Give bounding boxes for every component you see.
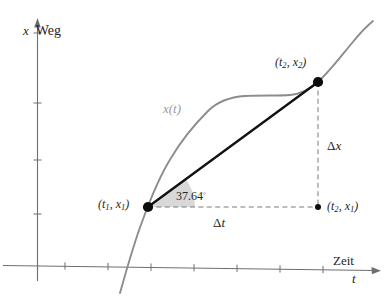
delta-x-variable: x <box>335 138 341 153</box>
paren-close: ) <box>354 199 358 213</box>
delta-t-label: Δt <box>213 216 225 229</box>
delta-t-variable: t <box>221 215 225 230</box>
y-axis-variable: x <box>23 23 29 38</box>
point-marker-t2-x2[interactable] <box>313 77 323 87</box>
x-axis-arrow-icon <box>372 267 382 274</box>
angle-number: 37.64 <box>176 189 203 203</box>
delta-x-label: Δx <box>327 139 341 152</box>
point-label-t1-x1: (t1, x1) <box>98 198 129 212</box>
figure-canvas: xWeg Zeit t x(t) (t1, x1) (t2, x2) (t2, … <box>0 0 385 301</box>
x-axis-ticks <box>65 262 323 273</box>
y-axis-label: xWeg <box>23 24 61 38</box>
curve-label: x(t) <box>163 102 181 115</box>
axis-group <box>3 18 381 281</box>
paren-close: ) <box>125 197 129 211</box>
point-marker-t1-x1[interactable] <box>143 202 153 212</box>
x-axis-name-label: Zeit <box>333 254 354 267</box>
paren-close: ) <box>302 55 306 69</box>
y-axis-unit-label: Weg <box>36 23 61 38</box>
degree-symbol: ◦ <box>203 189 206 198</box>
point-marker-t2-x1[interactable] <box>315 204 321 210</box>
x-axis-line <box>3 266 374 271</box>
x-axis-variable-label: t <box>352 272 356 285</box>
point-label-t2-x1: (t2, x1) <box>327 200 358 214</box>
angle-value-label: 37.64◦ <box>176 190 206 202</box>
point-label-t2-x2: (t2, x2) <box>275 56 306 70</box>
